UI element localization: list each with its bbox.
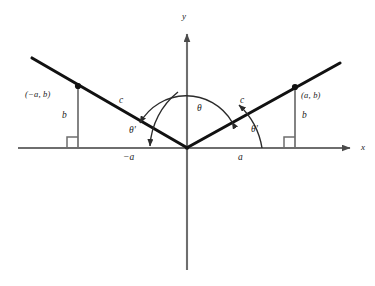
diagram-canvas: x y (−a, b) (a, b) c c b b −a a θ θ' θ' — [0, 0, 375, 286]
right-base-label: a — [238, 153, 243, 163]
left-ray — [32, 58, 188, 148]
theta-prime-left-label: θ' — [129, 126, 136, 136]
theta-prime-right-label: θ' — [251, 125, 258, 135]
theta-label: θ — [197, 104, 202, 114]
left-height-label: b — [62, 111, 67, 121]
right-hypotenuse-label: c — [240, 96, 244, 106]
left-base-label: −a — [123, 153, 135, 163]
left-point-marker — [75, 83, 81, 89]
left-point-label: (−a, b) — [25, 90, 51, 99]
y-axis-label: y — [182, 12, 186, 21]
left-hypotenuse-label: c — [119, 96, 123, 106]
right-right-angle-marker — [284, 137, 295, 148]
right-ray — [187, 63, 341, 148]
left-right-angle-marker — [67, 137, 78, 148]
right-height-label: b — [302, 111, 307, 121]
x-axis-label: x — [361, 143, 365, 152]
diagram-vector-layer — [0, 0, 375, 286]
right-point-marker — [292, 84, 298, 90]
right-point-label: (a, b) — [301, 91, 321, 100]
